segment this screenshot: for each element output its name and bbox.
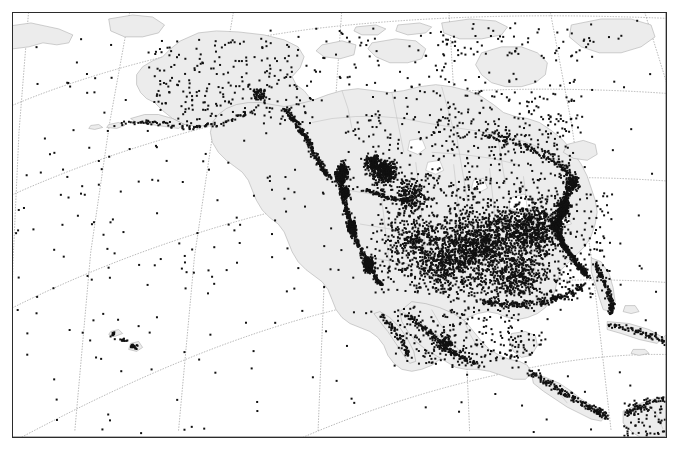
station-point [488, 72, 490, 74]
station-point [525, 189, 527, 191]
station-point [505, 143, 507, 145]
station-point [490, 360, 492, 362]
station-point [552, 155, 554, 157]
station-point [236, 262, 238, 264]
station-point [570, 233, 572, 235]
station-point [468, 189, 470, 191]
station-point [181, 268, 183, 270]
station-point [534, 211, 536, 213]
station-point [464, 352, 466, 354]
station-point [563, 203, 565, 205]
station-point [519, 191, 521, 193]
station-point [496, 288, 498, 290]
station-point [191, 248, 193, 250]
station-point [474, 35, 476, 37]
station-point [465, 224, 467, 226]
station-point [441, 276, 443, 278]
map-plot-frame[interactable] [12, 12, 667, 438]
station-point [488, 269, 490, 271]
station-point [451, 268, 453, 270]
station-point [374, 262, 376, 264]
station-point [560, 238, 562, 240]
station-point [125, 99, 127, 101]
station-point [419, 225, 421, 227]
station-point [647, 397, 649, 399]
station-point [372, 256, 374, 258]
map-canvas[interactable] [13, 13, 666, 437]
station-point [323, 245, 325, 247]
station-point [607, 289, 609, 291]
station-point [414, 224, 416, 226]
station-point [496, 182, 498, 184]
station-point [394, 159, 396, 161]
station-point [444, 350, 446, 352]
station-point [444, 316, 446, 318]
station-point [453, 126, 455, 128]
station-point [559, 164, 561, 166]
station-point [235, 60, 237, 62]
station-point [538, 369, 540, 371]
station-point [196, 48, 198, 50]
station-point [585, 264, 587, 266]
station-point [394, 336, 396, 338]
station-point [349, 224, 351, 226]
station-point [441, 263, 443, 265]
station-point [475, 253, 477, 255]
station-point [508, 130, 510, 132]
station-point [545, 236, 547, 238]
station-point [559, 390, 561, 392]
station-point [159, 48, 161, 50]
station-point [220, 123, 222, 125]
station-point [493, 255, 495, 257]
station-point [404, 269, 406, 271]
station-point [382, 223, 384, 225]
station-point [354, 238, 356, 240]
station-point [386, 320, 388, 322]
station-point [148, 52, 150, 54]
station-point [624, 414, 626, 416]
station-point [417, 189, 419, 191]
station-point [476, 301, 478, 303]
station-point [530, 243, 532, 245]
station-point [553, 279, 555, 281]
station-point [410, 199, 412, 201]
station-point [60, 194, 62, 196]
station-point [493, 302, 495, 304]
station-point [121, 122, 123, 124]
station-point [228, 42, 230, 44]
station-point [261, 59, 263, 61]
station-point [568, 253, 570, 255]
station-point [563, 243, 565, 245]
station-point [514, 337, 516, 339]
station-point [649, 73, 651, 75]
station-point [421, 274, 423, 276]
station-point [427, 289, 429, 291]
meridian-180 [13, 13, 29, 431]
station-point [552, 254, 554, 256]
station-point [463, 244, 465, 246]
station-point [627, 412, 629, 414]
station-point [253, 94, 255, 96]
station-point [555, 225, 557, 227]
station-point [504, 212, 506, 214]
station-point [82, 332, 84, 334]
station-point [389, 137, 391, 139]
station-point [530, 150, 532, 152]
station-point [467, 109, 469, 111]
station-point [473, 248, 475, 250]
station-point [449, 210, 451, 212]
station-point [438, 158, 440, 160]
station-point [476, 241, 478, 243]
station-point [590, 407, 592, 409]
station-point [447, 205, 449, 207]
station-point [410, 146, 412, 148]
station-point [538, 264, 540, 266]
station-point [63, 256, 65, 258]
station-point [392, 229, 394, 231]
station-point [436, 202, 438, 204]
station-point [520, 213, 522, 215]
station-point [489, 299, 491, 301]
station-point [373, 272, 375, 274]
station-point [583, 39, 585, 41]
station-point [377, 214, 379, 216]
